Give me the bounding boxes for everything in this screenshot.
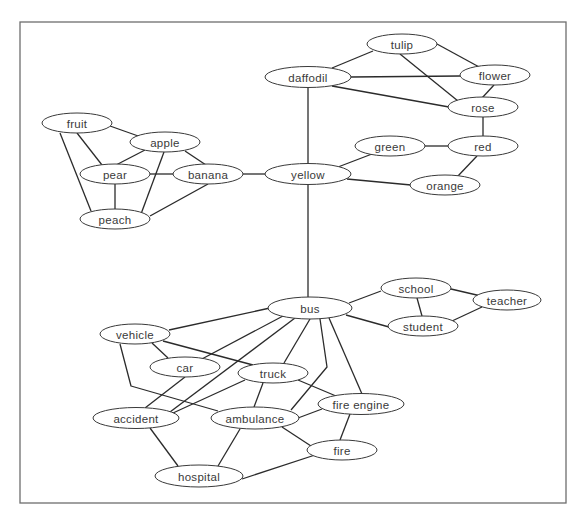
node-label: yellow: [291, 169, 325, 181]
node-label: apple: [150, 137, 180, 149]
node-apple: apple: [130, 132, 200, 152]
node-label: red: [474, 141, 492, 153]
node-label: truck: [260, 368, 286, 380]
node-flower: flower: [460, 65, 530, 85]
node-label: orange: [426, 180, 464, 192]
node-teacher: teacher: [473, 290, 541, 310]
node-label: school: [398, 283, 433, 295]
node-label: accident: [113, 413, 159, 425]
node-ambulance: ambulance: [211, 407, 299, 429]
node-label: tulip: [391, 39, 414, 51]
node-orange: orange: [410, 175, 480, 195]
node-label: fire engine: [332, 399, 389, 411]
node-red: red: [448, 136, 518, 156]
node-pear: pear: [80, 164, 150, 184]
node-label: flower: [479, 70, 511, 82]
node-school: school: [381, 278, 451, 298]
node-label: banana: [188, 169, 228, 181]
node-banana: banana: [173, 164, 243, 184]
node-label: pear: [103, 169, 127, 181]
node-fire-engine: fire engine: [318, 394, 404, 415]
node-label: fire: [333, 445, 350, 457]
diagram-frame: [20, 22, 566, 503]
node-fruit: fruit: [42, 113, 112, 133]
node-label: ambulance: [226, 413, 285, 425]
node-label: fruit: [67, 118, 88, 130]
node-label: bus: [300, 303, 319, 315]
node-vehicle: vehicle: [100, 324, 170, 344]
node-yellow: yellow: [265, 164, 351, 185]
node-label: vehicle: [116, 329, 154, 341]
node-label: rose: [471, 102, 495, 114]
node-bus: bus: [268, 297, 352, 319]
node-label: car: [177, 362, 194, 374]
node-green: green: [355, 136, 425, 156]
node-hospital: hospital: [155, 465, 243, 487]
node-label: hospital: [178, 471, 220, 483]
node-daffodil: daffodil: [265, 67, 351, 88]
node-car: car: [150, 357, 220, 377]
node-label: student: [403, 321, 443, 333]
node-rose: rose: [448, 97, 518, 117]
node-label: peach: [99, 214, 132, 226]
node-label: daffodil: [288, 72, 327, 84]
node-tulip: tulip: [367, 34, 437, 54]
node-peach: peach: [80, 209, 150, 229]
node-label: green: [375, 141, 406, 153]
node-student: student: [388, 316, 458, 336]
node-label: teacher: [487, 295, 527, 307]
semantic-network-diagram: tulipdaffodilflowerrosegreenredyellowora…: [0, 0, 583, 522]
node-fire: fire: [307, 440, 377, 460]
node-truck: truck: [238, 363, 308, 383]
node-accident: accident: [93, 408, 179, 429]
